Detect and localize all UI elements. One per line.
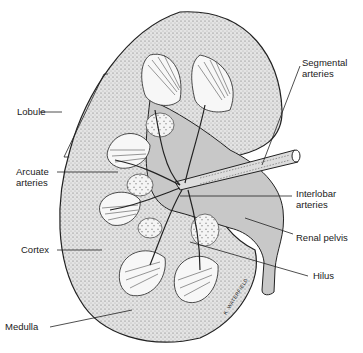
label-interlobar-arteries: Interlobar arteries (296, 188, 336, 210)
label-renal-pelvis: Renal pelvis (296, 232, 348, 243)
label-lobule: Lobule (17, 106, 46, 117)
label-cortex: Cortex (21, 244, 49, 255)
kidney-diagram: K. WATERFIELD (0, 0, 363, 353)
label-segmental-line2: arteries (302, 68, 347, 79)
label-arcuate-line2: arteries (16, 177, 49, 188)
label-interlobar-line1: Interlobar (296, 188, 336, 199)
label-arcuate-line1: Arcuate (16, 166, 49, 177)
label-segmental-arteries: Segmental arteries (302, 57, 347, 79)
label-medulla: Medulla (5, 321, 38, 332)
label-arcuate-arteries: Arcuate arteries (16, 166, 49, 188)
label-segmental-line1: Segmental (302, 57, 347, 68)
label-hilus: Hilus (313, 270, 334, 281)
label-interlobar-line2: arteries (296, 199, 336, 210)
